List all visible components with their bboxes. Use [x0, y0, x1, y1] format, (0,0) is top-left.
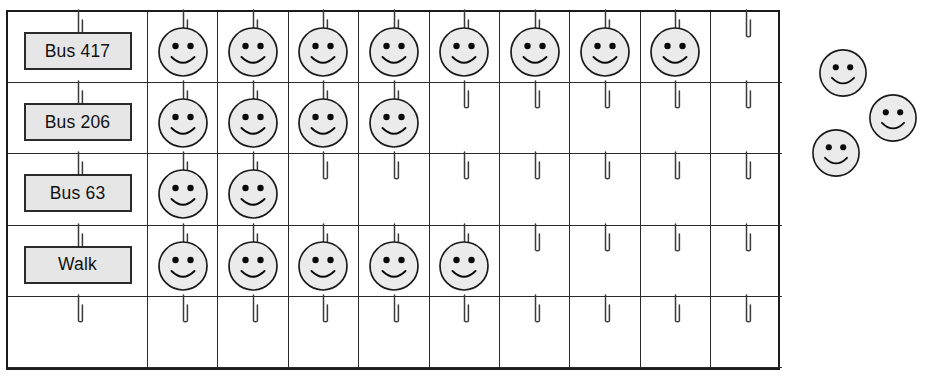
smiley-face-icon[interactable] [438, 240, 490, 292]
hook-icon [741, 152, 752, 186]
pictograph-cell[interactable] [359, 226, 429, 297]
pictograph-cell[interactable] [289, 297, 359, 368]
pictograph-cell[interactable] [500, 154, 570, 225]
pictograph-cell[interactable] [148, 154, 218, 225]
hook-icon [600, 152, 611, 186]
pictograph-cell[interactable] [218, 226, 288, 297]
pictograph-cell[interactable] [430, 12, 500, 83]
hook-icon [741, 295, 752, 329]
hook-icon [459, 152, 470, 186]
hook-icon [670, 224, 681, 258]
smiley-face-icon[interactable] [227, 168, 279, 220]
pictograph-cell[interactable] [641, 12, 711, 83]
hook-icon [530, 81, 541, 115]
smiley-face-icon[interactable] [368, 97, 420, 149]
hook-icon [670, 152, 681, 186]
pictograph-cell[interactable] [570, 154, 640, 225]
pictograph-chart-stage: Bus 417Bus 206Bus 63Walk [0, 0, 926, 379]
pictograph-cell[interactable] [570, 297, 640, 368]
row-label-cell[interactable] [8, 297, 148, 368]
pictograph-cell[interactable] [711, 154, 781, 225]
smiley-face-icon[interactable] [297, 240, 349, 292]
pictograph-cell[interactable] [570, 12, 640, 83]
pictograph-cell[interactable] [359, 83, 429, 154]
hook-icon [741, 81, 752, 115]
smiley-face-icon[interactable] [297, 26, 349, 78]
pictograph-grid: Bus 417Bus 206Bus 63Walk [6, 10, 780, 370]
pictograph-cell[interactable] [148, 83, 218, 154]
pictograph-cell[interactable] [641, 83, 711, 154]
smiley-face-icon[interactable] [157, 26, 209, 78]
pictograph-cell[interactable] [359, 297, 429, 368]
row-label-cell[interactable]: Walk [8, 226, 148, 297]
pictograph-cell[interactable] [218, 83, 288, 154]
pictograph-cell[interactable] [500, 83, 570, 154]
pictograph-cell[interactable] [430, 297, 500, 368]
smiley-face-icon[interactable] [579, 26, 631, 78]
hook-icon [459, 81, 470, 115]
smiley-face-icon[interactable] [509, 26, 561, 78]
hook-icon [530, 295, 541, 329]
pictograph-cell[interactable] [711, 297, 781, 368]
pictograph-cell[interactable] [289, 83, 359, 154]
hook-icon [741, 224, 752, 258]
smiley-face-icon[interactable] [157, 97, 209, 149]
pictograph-cell[interactable] [359, 12, 429, 83]
hook-icon [318, 152, 329, 186]
smiley-face-icon[interactable] [157, 168, 209, 220]
pictograph-cell[interactable] [218, 12, 288, 83]
loose-face-3[interactable] [811, 128, 861, 178]
row-label-plaque[interactable]: Bus 206 [24, 103, 132, 141]
hook-icon [73, 295, 84, 329]
hook-icon [459, 295, 470, 329]
pictograph-cell[interactable] [430, 226, 500, 297]
hook-icon [318, 295, 329, 329]
pictograph-cell[interactable] [641, 297, 711, 368]
pictograph-cell[interactable] [570, 83, 640, 154]
hook-icon [530, 152, 541, 186]
pictograph-cell[interactable] [218, 154, 288, 225]
pictograph-cell[interactable] [500, 226, 570, 297]
hook-icon [670, 295, 681, 329]
pictograph-cell[interactable] [500, 297, 570, 368]
row-label-plaque[interactable]: Bus 417 [24, 32, 132, 70]
row-label-plaque[interactable]: Bus 63 [24, 174, 132, 212]
smiley-face-icon[interactable] [227, 240, 279, 292]
pictograph-cell[interactable] [641, 154, 711, 225]
row-label-plaque[interactable]: Walk [24, 246, 132, 284]
pictograph-cell[interactable] [359, 154, 429, 225]
row-label-cell[interactable]: Bus 206 [8, 83, 148, 154]
pictograph-cell[interactable] [711, 226, 781, 297]
loose-face-1[interactable] [818, 48, 868, 98]
row-label-cell[interactable]: Bus 417 [8, 12, 148, 83]
smiley-face-icon[interactable] [649, 26, 701, 78]
pictograph-cell[interactable] [289, 226, 359, 297]
row-label-cell[interactable]: Bus 63 [8, 154, 148, 225]
pictograph-cell[interactable] [289, 154, 359, 225]
pictograph-cell[interactable] [430, 154, 500, 225]
hook-icon [670, 81, 681, 115]
pictograph-cell[interactable] [148, 12, 218, 83]
pictograph-cell[interactable] [430, 83, 500, 154]
loose-face-2[interactable] [868, 93, 918, 143]
pictograph-cell[interactable] [711, 12, 781, 83]
pictograph-cell[interactable] [218, 297, 288, 368]
pictograph-cell[interactable] [641, 226, 711, 297]
smiley-face-icon[interactable] [227, 26, 279, 78]
hook-icon [178, 295, 189, 329]
pictograph-cell[interactable] [570, 226, 640, 297]
hook-icon [530, 224, 541, 258]
smiley-face-icon[interactable] [227, 97, 279, 149]
hook-icon [600, 295, 611, 329]
smiley-face-icon[interactable] [438, 26, 490, 78]
smiley-face-icon[interactable] [297, 97, 349, 149]
pictograph-cell[interactable] [148, 226, 218, 297]
pictograph-cell[interactable] [711, 83, 781, 154]
smiley-face-icon[interactable] [368, 240, 420, 292]
smiley-face-icon[interactable] [157, 240, 209, 292]
hook-icon [741, 10, 752, 44]
pictograph-cell[interactable] [500, 12, 570, 83]
pictograph-cell[interactable] [289, 12, 359, 83]
pictograph-cell[interactable] [148, 297, 218, 368]
smiley-face-icon[interactable] [368, 26, 420, 78]
